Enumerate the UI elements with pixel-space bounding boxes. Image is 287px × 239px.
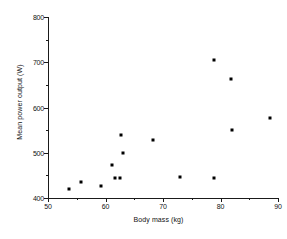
y-tick-label: 800: [33, 14, 44, 21]
x-tick-minor: [249, 198, 250, 200]
x-tick-label: 50: [44, 203, 51, 210]
data-point: [230, 78, 233, 81]
y-tick-label: 400: [33, 195, 44, 202]
data-point: [100, 184, 103, 187]
y-tick-major: [44, 108, 48, 109]
x-tick-label: 80: [217, 203, 224, 210]
x-axis-title-text: Body mass (kg): [133, 216, 183, 223]
data-point: [68, 188, 71, 191]
y-tick-minor: [46, 85, 48, 86]
y-tick-minor: [46, 175, 48, 176]
x-tick-major: [106, 198, 107, 202]
y-tick-minor: [46, 130, 48, 131]
data-point: [122, 151, 125, 154]
data-point: [212, 58, 215, 61]
x-tick-label: 90: [274, 203, 281, 210]
x-tick-major: [278, 198, 279, 202]
x-tick-minor: [134, 198, 135, 200]
data-point: [79, 180, 82, 183]
x-tick-major: [48, 198, 49, 202]
x-tick-label: 70: [159, 203, 166, 210]
plot-area: 400500600700800 5060708090: [48, 17, 278, 198]
y-tick-label: 600: [33, 104, 44, 111]
data-point: [231, 128, 234, 131]
y-tick-label: 700: [33, 59, 44, 66]
y-axis-title: Mean power output (W): [16, 22, 24, 182]
x-tick-minor: [192, 198, 193, 200]
x-tick-major: [163, 198, 164, 202]
data-point: [110, 163, 113, 166]
y-tick-label: 500: [33, 149, 44, 156]
x-tick-minor: [77, 198, 78, 200]
data-point: [179, 176, 182, 179]
data-point: [113, 177, 116, 180]
data-point: [268, 116, 271, 119]
x-tick-label: 60: [102, 203, 109, 210]
x-tick-major: [221, 198, 222, 202]
y-tick-minor: [46, 40, 48, 41]
data-point: [212, 176, 215, 179]
data-point: [152, 138, 155, 141]
data-point: [120, 133, 123, 136]
x-axis-title: Body mass (kg): [0, 216, 287, 224]
data-point: [119, 176, 122, 179]
y-tick-major: [44, 153, 48, 154]
scatter-plot-figure: 400500600700800 5060708090 Body mass (kg…: [0, 0, 287, 239]
y-tick-major: [44, 17, 48, 18]
y-tick-major: [44, 62, 48, 63]
